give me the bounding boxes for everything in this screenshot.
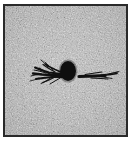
crack-right-feature xyxy=(79,72,119,80)
micrograph-image xyxy=(0,0,138,145)
defect-overlay xyxy=(5,6,126,135)
micrograph-frame xyxy=(3,4,128,137)
crack-left-feature xyxy=(30,60,63,84)
inclusion-particle-halo xyxy=(59,60,78,83)
specimen-surface xyxy=(5,6,126,135)
